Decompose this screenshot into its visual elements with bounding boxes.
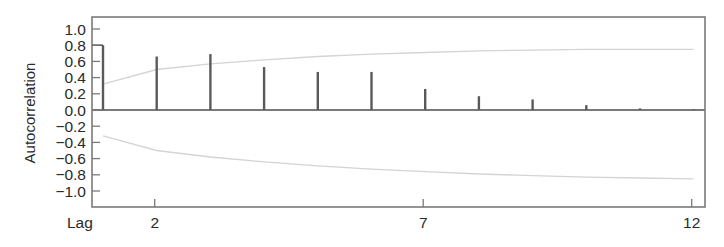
y-tick-label: 0.4	[64, 69, 86, 86]
x-tick-label: 7	[419, 214, 428, 231]
x-axis-title: Lag	[67, 214, 93, 231]
upper-confidence-line	[103, 49, 694, 84]
y-tick-label: −1.0	[55, 183, 86, 200]
plot-frame	[92, 17, 705, 207]
lower-confidence-line	[103, 136, 694, 179]
y-axis: 1.00.80.60.40.20.0−0.2−0.4−0.6−0.8−1.0	[55, 21, 100, 200]
y-tick-label: −0.2	[55, 118, 86, 135]
y-tick-label: 0.6	[64, 53, 86, 70]
y-tick-label: −0.4	[55, 134, 86, 151]
x-tick-label: 12	[683, 214, 700, 231]
y-tick-label: 1.0	[64, 21, 86, 38]
y-tick-label: 0.2	[64, 85, 86, 102]
x-tick-label: 2	[150, 214, 159, 231]
y-axis-title: Autocorrelation	[21, 63, 38, 164]
x-axis: 2712	[150, 199, 700, 231]
y-tick-label: 0.8	[64, 37, 86, 54]
confidence-band	[103, 49, 694, 179]
autocorrelation-bars	[92, 45, 694, 110]
y-tick-label: −0.8	[55, 166, 86, 183]
y-tick-label: 0.0	[64, 102, 86, 119]
autocorrelation-chart: 1.00.80.60.40.20.0−0.2−0.4−0.6−0.8−1.0 2…	[0, 0, 724, 247]
y-tick-label: −0.6	[55, 150, 86, 167]
plot-border	[92, 17, 705, 207]
